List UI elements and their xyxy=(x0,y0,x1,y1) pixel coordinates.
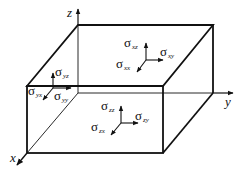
x-axis-label: x xyxy=(9,150,16,165)
y-axis-label: y xyxy=(223,94,231,109)
sigma-xx-label: σxx xyxy=(116,56,131,72)
sigma-yx-arrow xyxy=(43,88,53,100)
sigma-zx-label: σzx xyxy=(91,119,106,135)
axes xyxy=(17,9,233,165)
sigma-yz-label: σyz xyxy=(55,64,69,80)
stress-diagram: z y x σxz σxy σxx σyz σyx σyy σzz σzy σz… xyxy=(0,0,245,174)
sigma-yy-label: σyy xyxy=(54,88,69,104)
box-hidden-diagonal xyxy=(27,93,78,153)
sigma-zx-arrow xyxy=(111,123,121,135)
sigma-xy-label: σxy xyxy=(160,44,175,60)
z-axis-label: z xyxy=(66,5,72,20)
sigma-zy-label: σzy xyxy=(135,108,150,124)
box-right-bottom-edge xyxy=(163,93,213,153)
sigma-xx-arrow xyxy=(137,60,146,72)
sigma-zz-label: σzz xyxy=(101,98,115,114)
front-stress-triad xyxy=(111,106,138,135)
x-axis-arrow xyxy=(17,153,27,165)
sigma-xz-label: σxz xyxy=(124,35,138,51)
